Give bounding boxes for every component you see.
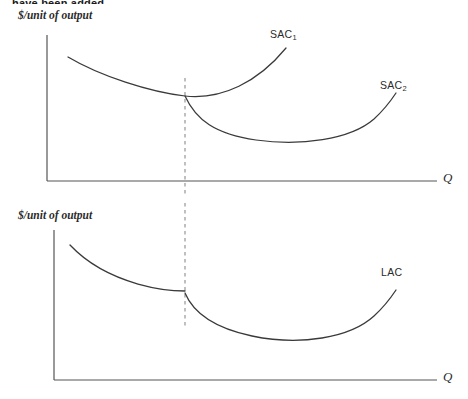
long-run-average-cost-panel: $/unit of output LAC Q — [0, 200, 468, 399]
lac-curve-descending-segment — [70, 245, 185, 291]
top-plot-svg — [0, 0, 468, 200]
lac-curve-u-segment — [185, 290, 396, 340]
sac1-curve — [68, 48, 286, 97]
sac1-label-base: SAC — [270, 28, 293, 40]
figure-root: have been added. $/unit of output SAC1 S… — [0, 0, 468, 399]
sac2-label: SAC2 — [380, 79, 407, 91]
sac2-curve — [185, 93, 396, 142]
lac-label-base: LAC — [381, 266, 402, 278]
x-axis-label-bottom: Q — [443, 369, 452, 385]
bottom-plot-svg — [0, 200, 468, 399]
sac2-label-base: SAC — [380, 79, 403, 91]
lac-label: LAC — [381, 266, 402, 278]
sac2-label-sub: 2 — [403, 84, 407, 93]
x-axis-label-top: Q — [443, 170, 452, 186]
sac1-label: SAC1 — [270, 28, 297, 40]
sac1-label-sub: 1 — [293, 33, 297, 42]
short-run-average-cost-panel: $/unit of output SAC1 SAC2 Q — [0, 0, 468, 200]
